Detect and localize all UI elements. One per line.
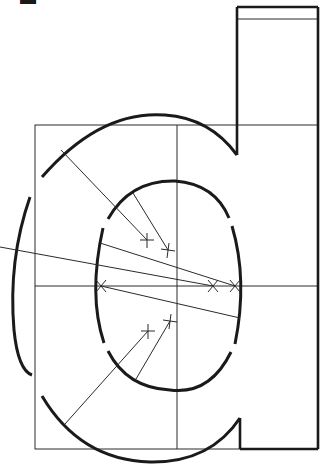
diagram-svg	[0, 0, 333, 476]
cross-icon	[163, 314, 177, 329]
letter-construction-diagram: ▬	[0, 0, 333, 476]
cross-icon	[161, 243, 175, 258]
outer-bowl	[13, 115, 240, 462]
stem	[237, 7, 318, 449]
corner-mark: ▬	[20, 0, 36, 7]
